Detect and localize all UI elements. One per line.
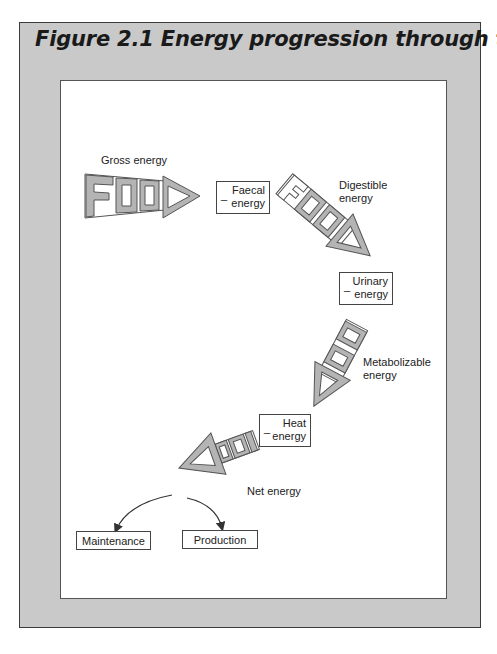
label-metabolizable-energy: Metabolizable energy — [363, 356, 431, 382]
arrow-to-production — [187, 498, 222, 528]
label-gross-energy: Gross energy — [101, 154, 167, 167]
food-arrow-net — [171, 419, 263, 488]
food-arrow-gross — [85, 174, 200, 218]
label-net-energy: Net energy — [247, 485, 301, 498]
label-digestible-energy: Digestible energy — [339, 179, 387, 205]
box-production: Production — [182, 530, 258, 549]
arrow-to-maintenance — [116, 495, 172, 530]
box-maintenance: Maintenance — [76, 531, 151, 550]
box-heat-energy: _ Heat energy — [259, 414, 311, 447]
energy-flow-diagram — [0, 0, 497, 654]
box-faecal-energy: _ Faecal energy — [216, 181, 270, 214]
box-urinary-energy: _ Urinary energy — [339, 272, 393, 305]
